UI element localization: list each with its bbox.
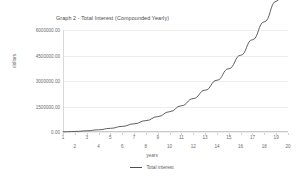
x-tick-mark [264, 133, 265, 135]
x-tick-label: 17 [250, 135, 255, 140]
x-tick-mark [75, 133, 76, 135]
x-tick-label: 2 [74, 144, 77, 149]
x-tick-mark [170, 133, 171, 135]
chart-container: Graph 2 - Total Interest (Compounded Yea… [0, 0, 304, 184]
x-tick-mark [134, 133, 135, 135]
x-tick-mark [158, 133, 159, 135]
x-tick-label: 20 [285, 144, 290, 149]
x-tick-label: 16 [238, 144, 243, 149]
x-tick-mark [288, 133, 289, 135]
y-tick-label: 4500000.00 [36, 53, 60, 58]
x-tick-mark [276, 133, 277, 135]
x-tick-mark [110, 133, 111, 135]
x-axis-title: years [0, 153, 304, 158]
y-axis-tick-labels: 6000000.004500000.003000000.001500000.00… [0, 30, 60, 132]
x-tick-label: 10 [167, 144, 172, 149]
x-tick-label: 13 [203, 135, 208, 140]
y-tick-label: 1500000.00 [36, 104, 60, 109]
y-tick-label: 6000000.00 [36, 28, 60, 33]
legend-label-total-interest: Total interest [146, 165, 173, 170]
x-tick-label: 15 [226, 135, 231, 140]
x-tick-label: 12 [191, 144, 196, 149]
x-tick-mark [229, 133, 230, 135]
plot-area [63, 30, 288, 132]
x-tick-mark [99, 133, 100, 135]
x-tick-label: 8 [145, 144, 148, 149]
x-tick-label: 19 [274, 135, 279, 140]
x-tick-mark [205, 133, 206, 135]
x-tick-label: 4 [97, 144, 100, 149]
total-interest-line [63, 30, 288, 132]
chart-title: Graph 2 - Total Interest (Compounded Yea… [56, 15, 169, 21]
x-tick-label: 1 [62, 135, 65, 140]
x-tick-label: 5 [109, 135, 112, 140]
x-tick-label: 14 [214, 144, 219, 149]
x-tick-label: 6 [121, 144, 124, 149]
x-tick-mark [217, 133, 218, 135]
x-tick-mark [193, 133, 194, 135]
x-tick-mark [122, 133, 123, 135]
x-tick-mark [146, 133, 147, 135]
x-tick-label: 11 [179, 135, 184, 140]
x-tick-label: 3 [85, 135, 88, 140]
y-tick-label: 0.00 [51, 130, 60, 135]
legend-line-swatch [130, 167, 142, 168]
x-tick-mark [181, 133, 182, 135]
x-tick-label: 9 [156, 135, 159, 140]
x-tick-label: 7 [133, 135, 136, 140]
x-tick-label: 18 [262, 144, 267, 149]
x-tick-mark [63, 133, 64, 135]
chart-legend: Total interest [0, 165, 304, 170]
y-tick-label: 3000000.00 [36, 79, 60, 84]
x-tick-mark [87, 133, 88, 135]
x-tick-mark [252, 133, 253, 135]
x-axis-tick-labels: 1234567891011121314151617181920 [63, 133, 288, 155]
x-tick-mark [241, 133, 242, 135]
